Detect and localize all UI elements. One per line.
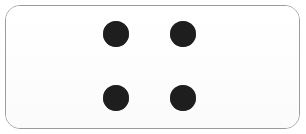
pip-top-right [170, 21, 196, 47]
pip-bottom-left [103, 85, 129, 111]
scene [0, 0, 306, 134]
pip-top-left [103, 21, 129, 47]
tile-face [6, 6, 299, 128]
pip-bottom-right [170, 85, 196, 111]
domino-tile[interactable] [5, 5, 300, 129]
